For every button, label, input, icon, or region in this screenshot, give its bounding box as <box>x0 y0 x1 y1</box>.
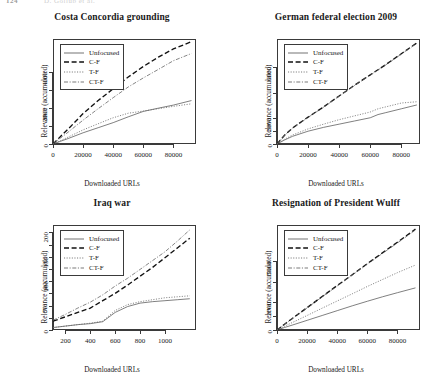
y-axis-line <box>276 67 277 144</box>
figure-panel-grid: Costa Concordia grounding Relevance (acc… <box>0 8 448 373</box>
y-axis: 050100150200 <box>47 225 53 330</box>
legend-item: C-F <box>64 58 119 68</box>
legend-label: Unfocused <box>313 49 343 57</box>
y-tick-label: 2000 <box>265 118 273 132</box>
legend-key-dotted <box>64 254 84 262</box>
y-axis: 020005000 <box>271 225 277 330</box>
x-tick-mark <box>143 144 144 148</box>
y-axis: 020004000 <box>47 39 53 144</box>
x-tick-label: 1000 <box>158 337 172 345</box>
legend: UnfocusedC-FT-FCT-F <box>60 44 124 90</box>
y-tick-mark <box>273 131 277 132</box>
x-tick-label: 80000 <box>389 337 407 345</box>
legend-item: CT-F <box>64 77 119 87</box>
y-tick-mark <box>49 232 53 233</box>
legend-item: Unfocused <box>64 234 119 244</box>
x-tick-label: 0 <box>275 337 279 345</box>
legend-key-dotted <box>64 68 84 76</box>
page-running-header: 124D. Gollub et al. <box>6 0 306 5</box>
x-tick-mark <box>53 144 54 148</box>
legend-item: C-F <box>288 244 343 254</box>
legend-label: Unfocused <box>89 49 119 57</box>
legend-item: Unfocused <box>64 48 119 58</box>
y-tick-mark <box>49 318 53 319</box>
y-tick-mark <box>273 118 277 119</box>
y-tick-label: 6000 <box>265 67 273 81</box>
y-tick-label: 2000 <box>41 108 49 122</box>
y-tick-mark <box>49 72 53 73</box>
legend-key-solid <box>64 49 84 57</box>
y-tick-label: 5000 <box>265 261 273 275</box>
legend-label: C-F <box>89 244 100 252</box>
legend-item: T-F <box>64 253 119 263</box>
legend-item: Unfocused <box>288 48 343 58</box>
legend-key-dashed <box>288 58 308 66</box>
legend-key-dashed <box>64 244 84 252</box>
y-tick-mark <box>49 90 53 91</box>
x-axis-label: Downloaded URLs <box>224 366 448 373</box>
y-tick-label: 4000 <box>41 72 49 86</box>
y-tick-mark <box>273 93 277 94</box>
x-axis-label: Downloaded URLs <box>0 366 224 373</box>
x-tick-mark <box>173 144 174 148</box>
series-line-unfocused <box>277 288 415 330</box>
x-tick-label: 80000 <box>165 151 183 159</box>
legend-label: C-F <box>313 244 324 252</box>
y-tick-mark <box>273 316 277 317</box>
legend-label: T-F <box>313 68 323 76</box>
chart-title: Costa Concordia grounding <box>0 12 224 22</box>
x-tick-label: 80000 <box>393 151 411 159</box>
legend-label: T-F <box>89 254 99 262</box>
chart-panel-wulff-resignation: Resignation of President Wulff Relevance… <box>224 194 448 373</box>
plot-area: 020005000 020000400006000080000 Unfocuse… <box>277 225 420 330</box>
chart-title: German federal election 2009 <box>224 12 448 22</box>
x-tick-mark <box>165 330 166 334</box>
x-axis-label: Downloaded URLs <box>224 180 448 188</box>
legend-item: CT-F <box>288 77 343 87</box>
legend-key-dashed <box>64 58 84 66</box>
plot-area: 050100150200 2004006008001000 UnfocusedC… <box>53 225 196 330</box>
x-tick-label: 60000 <box>362 151 380 159</box>
x-axis: 020000400006000080000 <box>277 330 420 336</box>
x-tick-label: 20000 <box>74 151 92 159</box>
legend-item: Unfocused <box>288 234 343 244</box>
x-tick-label: 0 <box>275 151 279 159</box>
y-tick-label: 100 <box>41 281 49 292</box>
legend-label: CT-F <box>89 264 104 272</box>
plot-area: 020006000 020000400006000080000 Unfocuse… <box>277 39 420 144</box>
running-head: D. Gollub et al. <box>44 0 95 5</box>
legend-label: C-F <box>89 58 100 66</box>
legend-label: CT-F <box>89 78 104 86</box>
x-tick-mark <box>337 330 338 334</box>
x-tick-mark <box>308 144 309 148</box>
legend-key-solid <box>288 49 308 57</box>
legend-label: Unfocused <box>89 235 119 243</box>
legend-label: Unfocused <box>313 235 343 243</box>
legend-label: T-F <box>313 254 323 262</box>
legend-key-dotdash <box>288 264 308 272</box>
y-tick-mark <box>49 245 53 246</box>
y-tick-label: 200 <box>41 232 49 243</box>
series-line-t-f <box>53 104 191 144</box>
x-tick-label: 60000 <box>135 151 153 159</box>
series-line-unfocused <box>53 299 190 328</box>
x-tick-mark <box>370 144 371 148</box>
chart-panel-costa-concordia: Costa Concordia grounding Relevance (acc… <box>0 8 224 194</box>
legend-key-solid <box>288 235 308 243</box>
y-tick-mark <box>273 302 277 303</box>
y-tick-mark <box>49 293 53 294</box>
legend-item: T-F <box>288 67 343 77</box>
x-tick-label: 20000 <box>298 337 316 345</box>
x-tick-mark <box>307 330 308 334</box>
x-tick-label: 800 <box>135 337 146 345</box>
legend-item: CT-F <box>288 263 343 273</box>
x-axis: 2004006008001000 <box>53 330 196 336</box>
x-tick-label: 40000 <box>328 337 346 345</box>
y-tick-label: 0 <box>41 330 49 334</box>
legend-label: T-F <box>89 68 99 76</box>
legend: UnfocusedC-FT-FCT-F <box>60 230 124 276</box>
chart-title: Iraq war <box>0 198 224 208</box>
legend-item: C-F <box>288 58 343 68</box>
x-tick-mark <box>277 144 278 148</box>
x-tick-label: 400 <box>85 337 96 345</box>
